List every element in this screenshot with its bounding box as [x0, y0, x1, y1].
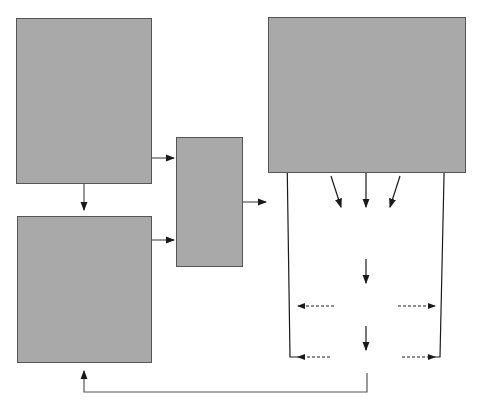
- external-events-box: [17, 216, 152, 363]
- policy-subsystem-box: [268, 17, 466, 173]
- constraints-box: [176, 137, 243, 267]
- stable-parameters-box: [16, 18, 152, 184]
